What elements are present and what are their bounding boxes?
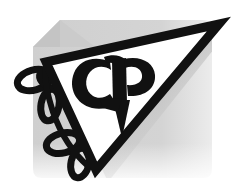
logo-canvas: CP pennant logo Stylized CP monogram ins… bbox=[0, 0, 234, 194]
cp-logo-graphic bbox=[0, 0, 234, 194]
